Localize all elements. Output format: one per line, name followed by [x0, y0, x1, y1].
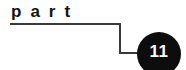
callout-diagram: part 11	[0, 0, 186, 70]
status-badge: 11	[137, 32, 181, 70]
badge-number: 11	[137, 32, 181, 70]
leader-polyline	[10, 24, 143, 53]
